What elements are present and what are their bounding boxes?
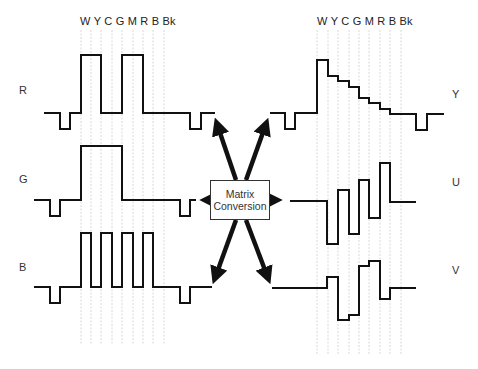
matrix-conversion-box: Matrix Conversion	[210, 180, 270, 220]
g-waveform	[34, 146, 196, 216]
output-label-v: V	[452, 264, 459, 276]
input-label-b: B	[19, 261, 26, 273]
y-waveform	[270, 60, 444, 130]
input-label-r: R	[19, 84, 27, 96]
right-bar-header: W Y C G M R B Bk	[317, 15, 413, 27]
output-label-y: Y	[452, 88, 459, 100]
matrix-label-line2: Conversion	[213, 200, 266, 212]
arrow-to-b	[215, 220, 236, 278]
b-waveform	[34, 233, 212, 303]
left-bar-header: W Y C G M R B Bk	[80, 15, 176, 27]
r-waveform	[44, 55, 215, 129]
arrow-to-r	[217, 124, 236, 180]
input-label-g: G	[19, 173, 28, 185]
v-waveform	[272, 261, 416, 320]
u-waveform	[290, 163, 416, 244]
arrow-to-y	[246, 124, 266, 180]
arrow-to-v	[246, 220, 268, 278]
matrix-label-line1: Matrix	[226, 188, 255, 200]
output-label-u: U	[452, 176, 460, 188]
